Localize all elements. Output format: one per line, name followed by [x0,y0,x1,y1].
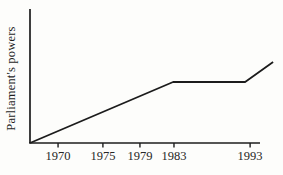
chart-canvas: 19701975197919831993 [0,0,283,175]
x-tick-label: 1979 [127,149,152,163]
x-tick-label: 1975 [90,149,115,163]
x-tick-label: 1970 [46,149,71,163]
data-line [30,62,273,143]
line-chart-figure: Parliament's powers 19701975197919831993 [0,0,283,175]
x-tick-label: 1983 [161,149,186,163]
x-tick-label: 1993 [238,149,263,163]
